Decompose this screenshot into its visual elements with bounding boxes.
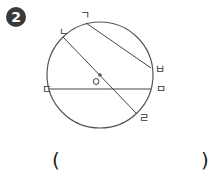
answer-open-paren: ( — [52, 148, 60, 172]
point-label: ㅂ — [155, 63, 165, 76]
center-label: ㅇ — [91, 76, 101, 89]
point-label: ㄱ — [80, 9, 90, 22]
point-label: ㄷ — [42, 83, 52, 96]
point-label: ㄴ — [59, 26, 69, 39]
answer-field[interactable] — [66, 150, 198, 174]
point-labels-group: ㄱㄴㄷㄹㅁㅂ — [42, 9, 166, 125]
point-label: ㅁ — [156, 83, 166, 96]
point-label: ㄹ — [139, 112, 149, 125]
answer-close-paren: ) — [201, 148, 209, 172]
chord-giyeok-bieup — [86, 23, 151, 68]
